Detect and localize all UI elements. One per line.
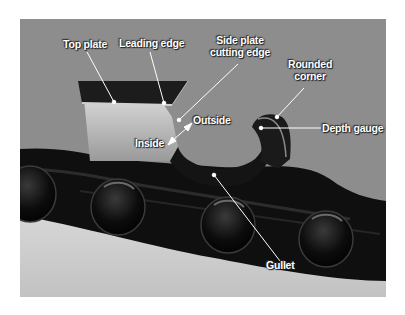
cutter-top-plate <box>78 81 188 105</box>
label-side-plate-line1: Side plate <box>210 34 270 46</box>
label-gullet: Gullet <box>266 259 295 271</box>
label-outside: Outside <box>193 114 231 126</box>
label-rounded-corner: Rounded corner <box>288 58 332 82</box>
label-top-plate: Top plate <box>63 38 107 50</box>
label-rounded-corner-line2: corner <box>288 70 332 82</box>
rivet <box>91 179 145 235</box>
leader-rounded-corner <box>277 88 304 117</box>
rivet <box>201 197 255 253</box>
leader-side-plate <box>179 64 238 120</box>
label-side-plate-cutting-edge: Side plate cutting edge <box>210 34 270 58</box>
label-rounded-corner-line1: Rounded <box>288 58 332 70</box>
chain-photo: Top plate Leading edge Side plate cuttin… <box>20 19 386 297</box>
label-inside: Inside <box>135 137 164 149</box>
label-leading-edge: Leading edge <box>119 37 184 49</box>
cutter-side-plate <box>84 99 178 161</box>
label-side-plate-line2: cutting edge <box>210 46 270 58</box>
label-depth-gauge: Depth gauge <box>322 122 383 134</box>
rivet <box>299 211 353 267</box>
